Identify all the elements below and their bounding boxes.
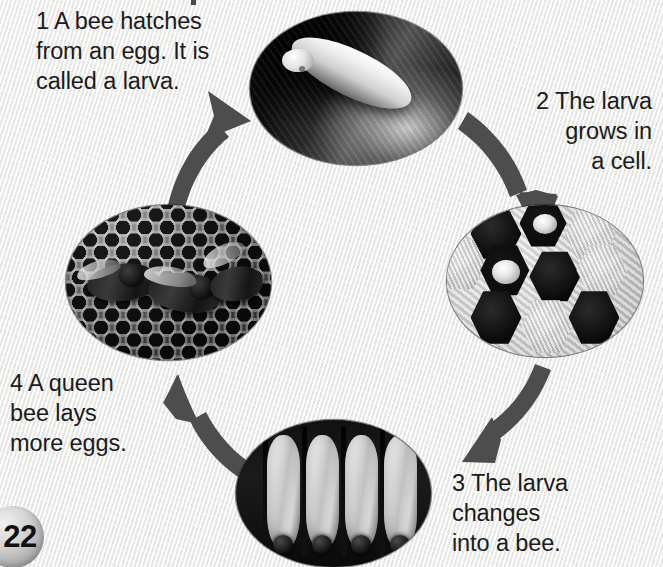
comb-grub (533, 214, 557, 234)
bees-on-comb-photo (66, 205, 271, 360)
larva-head-shape (282, 49, 314, 72)
step-2-caption: 2 The larva grows in a cell. (452, 86, 652, 176)
arrow-bees-to-larva (167, 91, 251, 216)
pupa-eye (312, 535, 332, 554)
page-number-badge: 22 (0, 506, 44, 567)
page-number-text: 22 (0, 519, 37, 555)
pupae-in-cells-photo (236, 420, 431, 567)
comb-grub (492, 260, 519, 284)
pupa (267, 435, 300, 550)
larva-marking (299, 66, 305, 72)
bee-head (119, 264, 144, 287)
pupa (384, 435, 417, 550)
step-4-caption: 4 A queen bee lays more eggs. (10, 368, 200, 458)
pupa-eye (273, 535, 293, 554)
pupa (306, 435, 339, 550)
arrow-cells-to-pupae (462, 364, 551, 463)
step-3-caption: 3 The larva changes into a bee. (452, 468, 657, 558)
honeycomb-cells-photo (447, 205, 643, 357)
pupa-eye (351, 535, 371, 554)
step-1-caption: 1 A bee hatches from an egg. It is calle… (36, 6, 286, 96)
pupa (345, 435, 378, 550)
textbook-page: 1 A bee hatches from an egg. It is calle… (0, 0, 663, 567)
heading-clip-artifact (191, 0, 196, 5)
pupa-eye (390, 535, 410, 554)
